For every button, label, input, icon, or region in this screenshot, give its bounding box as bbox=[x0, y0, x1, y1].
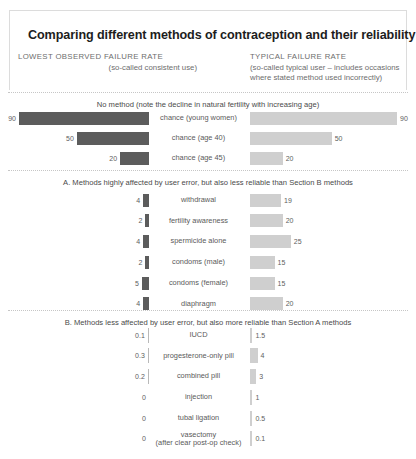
right-value-label: 20 bbox=[286, 155, 294, 162]
left-value-label: 0.1 bbox=[135, 332, 145, 339]
method-label: condoms (female) bbox=[152, 273, 245, 293]
bar-row: 0tubal ligation0.5 bbox=[0, 408, 416, 428]
left-bar-track: 2 bbox=[0, 252, 149, 272]
right-column-header: TYPICAL FAILURE RATE (so-called typical … bbox=[250, 52, 415, 84]
right-bar bbox=[250, 369, 256, 384]
right-bar bbox=[250, 194, 281, 207]
right-column-caption: TYPICAL FAILURE RATE bbox=[250, 52, 415, 63]
section-rows: 90chance (young women)9050chance (age 40… bbox=[0, 108, 416, 168]
left-bar-track: 0.2 bbox=[0, 367, 149, 387]
right-bar bbox=[250, 235, 291, 248]
right-bar-track: 1.5 bbox=[250, 325, 416, 345]
method-label: tubal ligation bbox=[152, 408, 245, 428]
right-bar-track: 0.5 bbox=[250, 408, 416, 428]
left-bar-track: 50 bbox=[0, 128, 149, 148]
left-bar bbox=[142, 277, 149, 290]
left-bar bbox=[19, 112, 149, 125]
left-value-label: 0.3 bbox=[135, 352, 145, 359]
bar-row: 5condoms (female)15 bbox=[0, 273, 416, 293]
left-bar-track: 20 bbox=[0, 148, 149, 168]
right-bar bbox=[250, 112, 397, 125]
right-value-label: 15 bbox=[278, 280, 286, 287]
section-divider bbox=[8, 310, 408, 311]
right-bar bbox=[250, 132, 332, 145]
left-column-subtitle: (so-called consistent use) bbox=[18, 63, 197, 74]
left-bar-track: 0 bbox=[0, 408, 149, 428]
method-label: vasectomy(after clear post-op check) bbox=[152, 429, 245, 449]
right-value-label: 20 bbox=[286, 217, 294, 224]
left-bar bbox=[148, 348, 149, 363]
right-bar-track: 15 bbox=[250, 273, 416, 293]
right-bar-track: 50 bbox=[250, 128, 416, 148]
bar-row: 0injection1 bbox=[0, 387, 416, 407]
left-bar-track: 0.3 bbox=[0, 346, 149, 366]
left-bar-track: 0.1 bbox=[0, 325, 149, 345]
left-bar-track: 0 bbox=[0, 429, 149, 449]
left-bar-track: 4 bbox=[0, 190, 149, 210]
left-bar-track: 5 bbox=[0, 273, 149, 293]
right-bar bbox=[250, 256, 275, 269]
right-bar-track: 20 bbox=[250, 211, 416, 231]
bar-row: 4withdrawal19 bbox=[0, 190, 416, 210]
method-label: injection bbox=[152, 387, 245, 407]
bar-row: 90chance (young women)90 bbox=[0, 108, 416, 128]
left-bar bbox=[148, 328, 149, 343]
left-bar bbox=[148, 369, 149, 384]
right-value-label: 4 bbox=[261, 352, 265, 359]
left-value-label: 4 bbox=[136, 197, 140, 204]
bar-row: 2condoms (male)15 bbox=[0, 252, 416, 272]
left-bar bbox=[77, 132, 149, 145]
right-bar-track: 1 bbox=[250, 387, 416, 407]
section-rows: 0.1IUCD1.50.3progesterone-only pill40.2c… bbox=[0, 325, 416, 450]
bar-row: 0vasectomy(after clear post-op check)0.1 bbox=[0, 429, 416, 449]
right-value-label: 15 bbox=[278, 259, 286, 266]
section-divider bbox=[8, 92, 408, 93]
left-value-label: 0 bbox=[142, 415, 146, 422]
right-bar-track: 25 bbox=[250, 232, 416, 252]
right-bar bbox=[250, 431, 252, 446]
right-value-label: 90 bbox=[400, 115, 408, 122]
right-value-label: 50 bbox=[335, 135, 343, 142]
method-label: spermicide alone bbox=[152, 232, 245, 252]
left-value-label: 0 bbox=[142, 394, 146, 401]
section-rows: 4withdrawal192fertility awareness204sper… bbox=[0, 190, 416, 315]
page-title: Comparing different methods of contracep… bbox=[28, 28, 415, 42]
right-column-subtitle-line-2: where stated method used incorrectly) bbox=[250, 73, 415, 84]
left-bar-track: 90 bbox=[0, 108, 149, 128]
left-value-label: 0.2 bbox=[135, 373, 145, 380]
right-value-label: 0.1 bbox=[255, 435, 265, 442]
method-label: condoms (male) bbox=[152, 252, 245, 272]
left-value-label: 0 bbox=[142, 435, 146, 442]
left-bar bbox=[145, 256, 149, 269]
right-bar-track: 3 bbox=[250, 367, 416, 387]
left-value-label: 50 bbox=[66, 135, 74, 142]
bar-row: 4spermicide alone25 bbox=[0, 232, 416, 252]
left-bar bbox=[120, 152, 149, 165]
right-bar bbox=[250, 328, 252, 343]
bar-row: 50chance (age 40)50 bbox=[0, 128, 416, 148]
left-column-caption: LOWEST OBSERVED FAILURE RATE bbox=[18, 52, 218, 63]
bar-row: 0.1IUCD1.5 bbox=[0, 325, 416, 345]
right-value-label: 20 bbox=[286, 300, 294, 307]
left-value-label: 90 bbox=[8, 115, 16, 122]
section-divider bbox=[8, 170, 408, 171]
right-bar-track: 4 bbox=[250, 346, 416, 366]
right-value-label: 19 bbox=[284, 197, 292, 204]
right-value-label: 25 bbox=[294, 238, 302, 245]
method-label: progesterone-only pill bbox=[152, 346, 245, 366]
right-bar-track: 0.1 bbox=[250, 429, 416, 449]
left-value-label: 4 bbox=[136, 238, 140, 245]
section-heading: A. Methods highly affected by user error… bbox=[0, 178, 416, 187]
right-bar bbox=[250, 214, 283, 227]
right-bar bbox=[250, 390, 252, 405]
left-value-label: 4 bbox=[136, 300, 140, 307]
right-column-subtitle-line-1: (so-called typical user – includes occas… bbox=[250, 63, 415, 74]
bar-row: 20chance (age 45)20 bbox=[0, 148, 416, 168]
left-bar-track: 4 bbox=[0, 232, 149, 252]
left-bar-track: 2 bbox=[0, 211, 149, 231]
right-bar bbox=[250, 411, 252, 426]
method-label: chance (age 40) bbox=[152, 128, 245, 148]
left-value-label: 20 bbox=[109, 155, 117, 162]
bar-row: 2fertility awareness20 bbox=[0, 211, 416, 231]
left-bar bbox=[143, 194, 149, 207]
